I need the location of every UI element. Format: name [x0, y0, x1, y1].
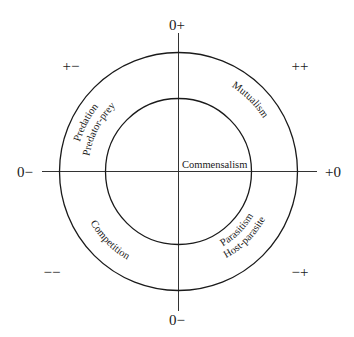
axis-label-left: 0−: [17, 164, 33, 180]
ring-label-competition: Competition: [89, 218, 133, 262]
axis-label-top: 0+: [169, 17, 185, 33]
ring-label-mutualism: Mutualism: [230, 79, 271, 120]
interaction-diagram: 0+ 0− 0− +0 +− ++ −− −+ Commensalism Pre…: [0, 0, 354, 337]
axis-label-bottom: 0−: [169, 312, 185, 328]
quadrant-label-bottom-right: −+: [292, 264, 309, 280]
quadrant-label-top-left: +−: [63, 58, 80, 74]
quadrant-label-bottom-left: −−: [44, 264, 61, 280]
axis-label-right: +0: [325, 164, 341, 180]
quadrant-label-top-right: ++: [292, 58, 309, 74]
center-label-commensalism: Commensalism: [182, 159, 247, 170]
